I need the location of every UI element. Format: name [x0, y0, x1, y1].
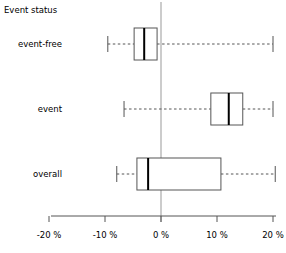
- box-group: [108, 28, 275, 190]
- box-iqr: [211, 93, 243, 125]
- category-axis: event-freeeventoverall: [18, 39, 63, 179]
- boxplot-overall: [117, 158, 275, 190]
- x-tick-label-0: -20 %: [37, 230, 62, 240]
- x-axis: -20 %-10 %0 %10 %20 %: [37, 216, 284, 240]
- box-iqr: [137, 158, 221, 190]
- boxplot-event: [124, 93, 273, 125]
- box-iqr: [134, 28, 157, 60]
- x-tick-label-2: 0 %: [153, 230, 169, 240]
- x-tick-label-3: 10 %: [206, 230, 228, 240]
- x-axis-ticks: [49, 216, 273, 222]
- x-tick-label-4: 20 %: [262, 230, 284, 240]
- category-label-event-free: event-free: [18, 39, 62, 49]
- category-label-event: event: [38, 104, 63, 114]
- x-tick-label-1: -10 %: [93, 230, 118, 240]
- boxplot-chart: Event status event-freeeventoverall -20 …: [0, 0, 286, 253]
- chart-title: Event status: [4, 5, 58, 15]
- boxplot-event-free: [108, 28, 273, 60]
- category-label-overall: overall: [33, 169, 62, 179]
- x-axis-tick-labels: -20 %-10 %0 %10 %20 %: [37, 230, 284, 240]
